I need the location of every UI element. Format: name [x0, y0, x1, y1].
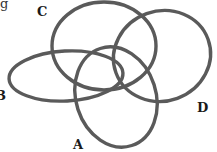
ring-d: [101, 0, 217, 115]
rings-svg: [0, 0, 217, 152]
label-a: A: [73, 138, 83, 151]
label-d: D: [197, 101, 208, 114]
top-left-fragment-text: g: [0, 0, 8, 10]
label-b: B: [0, 89, 6, 102]
label-c: C: [37, 5, 47, 18]
rings-diagram: g C B A D: [0, 0, 217, 152]
